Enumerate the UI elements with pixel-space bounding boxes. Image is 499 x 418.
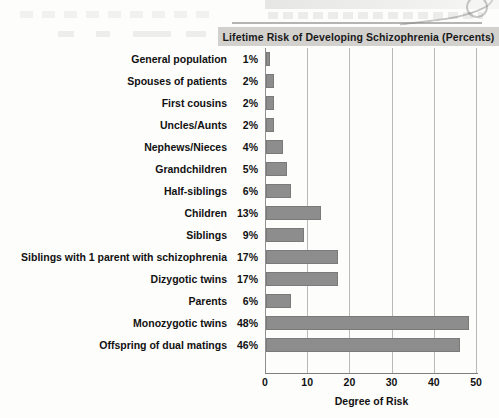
x-tick-label: 0 xyxy=(250,376,280,388)
value-label: 17% xyxy=(228,268,258,290)
value-label: 6% xyxy=(228,180,258,202)
category-label: Siblings xyxy=(186,224,227,246)
bar xyxy=(266,96,274,110)
bar xyxy=(266,140,283,154)
scan-artifact-header-text xyxy=(268,12,483,19)
bar xyxy=(266,272,338,286)
chart-page: Lifetime Risk of Developing Schizophreni… xyxy=(0,0,499,418)
scan-artifact-ghost-word xyxy=(186,31,206,37)
category-label: Offspring of dual matings xyxy=(99,334,227,356)
chart-row: Parents6% xyxy=(0,290,499,312)
bar xyxy=(266,228,304,242)
scan-artifact-rule xyxy=(232,22,482,24)
category-label: Nephews/Nieces xyxy=(144,136,227,158)
category-label: Dizygotic twins xyxy=(151,268,227,290)
scan-artifact-ghost-word xyxy=(96,31,110,37)
category-label: General population xyxy=(131,48,227,70)
scan-artifact-ghost-word xyxy=(133,31,171,37)
value-label: 4% xyxy=(228,136,258,158)
category-label: Children xyxy=(184,202,227,224)
x-tick-label: 10 xyxy=(292,376,322,388)
chart-row: General population1% xyxy=(0,48,499,70)
x-tick-label: 20 xyxy=(334,376,364,388)
bar xyxy=(266,206,321,220)
bar xyxy=(266,184,291,198)
chart-row: Siblings9% xyxy=(0,224,499,246)
x-axis-label: Degree of Risk xyxy=(265,395,478,407)
value-label: 13% xyxy=(228,202,258,224)
category-label: Half-siblings xyxy=(164,180,227,202)
scan-artifact-top-band xyxy=(265,0,499,9)
chart-row: Siblings with 1 parent with schizophreni… xyxy=(0,246,499,268)
bar xyxy=(266,250,338,264)
category-label: Uncles/Aunts xyxy=(160,114,227,136)
bar xyxy=(266,316,469,330)
chart-row: Spouses of patients2% xyxy=(0,70,499,92)
value-label: 1% xyxy=(228,48,258,70)
scan-artifact-ghost-word xyxy=(58,31,74,37)
value-label: 6% xyxy=(228,290,258,312)
category-label: Monozygotic twins xyxy=(133,312,227,334)
value-label: 5% xyxy=(228,158,258,180)
value-label: 2% xyxy=(228,92,258,114)
bar xyxy=(266,52,270,66)
category-label: Spouses of patients xyxy=(127,70,227,92)
category-label: Grandchildren xyxy=(155,158,227,180)
x-tick-label: 50 xyxy=(461,376,491,388)
bar xyxy=(266,162,287,176)
x-tick-label: 30 xyxy=(377,376,407,388)
scan-artifact-left-text xyxy=(20,11,210,18)
value-label: 46% xyxy=(228,334,258,356)
chart-rows: General population1%Spouses of patients2… xyxy=(0,48,499,374)
chart-row: Grandchildren5% xyxy=(0,158,499,180)
category-label: Siblings with 1 parent with schizophreni… xyxy=(21,246,227,268)
bar xyxy=(266,294,291,308)
chart-row: Offspring of dual matings46% xyxy=(0,334,499,356)
bar xyxy=(266,118,274,132)
value-label: 2% xyxy=(228,70,258,92)
chart-row: First cousins2% xyxy=(0,92,499,114)
scan-artifact-circle xyxy=(466,0,488,18)
bar xyxy=(266,338,460,352)
chart-row: Nephews/Nieces4% xyxy=(0,136,499,158)
x-axis-ticks: 01020304050 xyxy=(0,376,499,392)
category-label: First cousins xyxy=(162,92,227,114)
chart-row: Uncles/Aunts2% xyxy=(0,114,499,136)
chart-row: Monozygotic twins48% xyxy=(0,312,499,334)
value-label: 2% xyxy=(228,114,258,136)
value-label: 48% xyxy=(228,312,258,334)
category-label: Parents xyxy=(188,290,227,312)
chart-row: Half-siblings6% xyxy=(0,180,499,202)
chart-row: Children13% xyxy=(0,202,499,224)
value-label: 17% xyxy=(228,246,258,268)
scan-artifact-swoosh xyxy=(397,0,495,26)
chart-row: Dizygotic twins17% xyxy=(0,268,499,290)
x-axis-line xyxy=(265,373,478,374)
x-tick-label: 40 xyxy=(419,376,449,388)
bar xyxy=(266,74,274,88)
value-label: 9% xyxy=(228,224,258,246)
chart-title: Lifetime Risk of Developing Schizophreni… xyxy=(218,27,499,46)
